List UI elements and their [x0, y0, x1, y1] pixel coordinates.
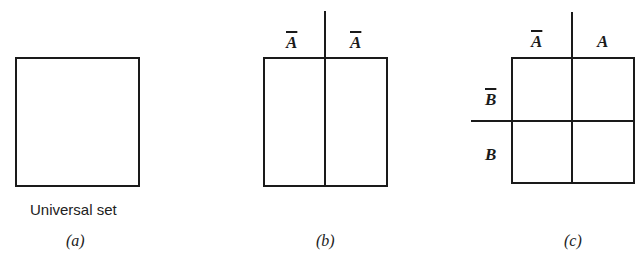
universal-set-caption: Universal set	[30, 201, 117, 218]
panel-b-label: (b)	[316, 232, 335, 250]
panel-c-horizontal-divider	[471, 120, 635, 122]
panel-c-label-b-complement: B	[485, 91, 496, 108]
panel-c-label-a-complement: A	[531, 33, 542, 50]
panel-c-label-b: B	[485, 146, 496, 163]
panel-c-label: (c)	[564, 232, 582, 250]
panel-c-label-a: A	[597, 33, 608, 50]
universal-set-box	[15, 57, 140, 187]
panel-b-vertical-divider	[324, 11, 326, 187]
panel-c-vertical-divider	[571, 12, 573, 184]
panel-b-label-right-a-complement: A	[350, 34, 361, 51]
panel-b-label-left-a-complement: A	[286, 34, 297, 51]
panel-a-label: (a)	[66, 232, 85, 250]
